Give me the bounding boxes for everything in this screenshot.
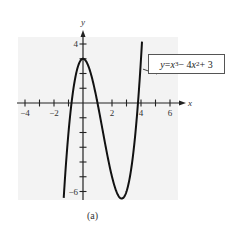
- x-axis-arrow-icon: [179, 101, 186, 106]
- figure-caption: (a): [87, 210, 98, 221]
- callout-plus-3: + 3: [200, 59, 213, 70]
- y-axis-label: y: [80, 17, 85, 27]
- x-tick-label: 6: [168, 108, 173, 118]
- y-axis-arrow-icon: [81, 30, 86, 37]
- x-tick-label: −2: [49, 108, 59, 118]
- x-tick-label: −4: [20, 108, 30, 118]
- cubic-function-graph: xy −4−22464−6: [0, 0, 233, 239]
- equation-callout: y = x3 − 4x2 + 3: [148, 54, 225, 74]
- x-tick-label: 2: [110, 108, 115, 118]
- y-tick-label: 4: [74, 39, 79, 49]
- y-tick-label: −6: [68, 187, 78, 197]
- callout-minus-4: − 4: [178, 59, 191, 70]
- x-tick-label: 4: [139, 108, 144, 118]
- x-axis-label: x: [187, 98, 192, 108]
